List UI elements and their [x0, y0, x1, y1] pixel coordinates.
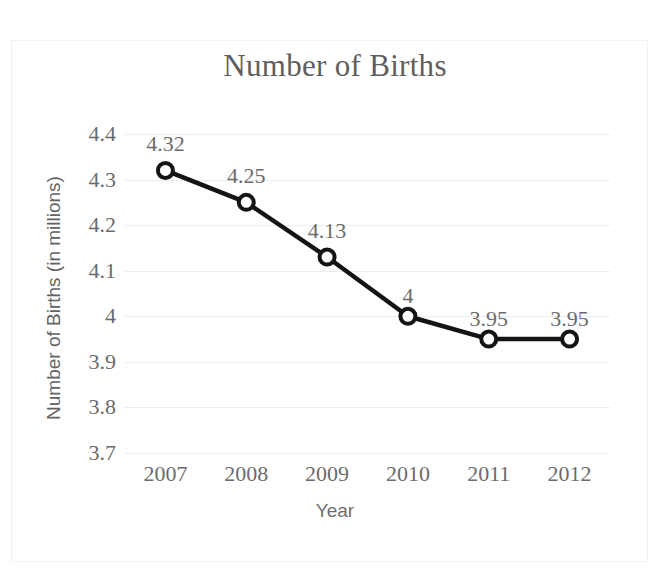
- y-axis-tick-label: 3.9: [58, 351, 116, 373]
- data-point-marker[interactable]: [400, 309, 415, 324]
- data-point-marker[interactable]: [239, 195, 254, 210]
- data-point-marker[interactable]: [158, 163, 173, 178]
- data-point-label: 4: [363, 285, 453, 307]
- y-axis-tick-label: 3.7: [58, 442, 116, 464]
- x-axis-tick-label: 2007: [125, 463, 205, 485]
- y-axis-tick-label: 4.3: [58, 169, 116, 191]
- data-point-label: 4.13: [282, 220, 372, 242]
- data-point-marker[interactable]: [481, 332, 496, 347]
- x-axis-title: Year: [0, 500, 670, 522]
- y-axis-tick-label: 4.4: [58, 123, 116, 145]
- data-point-label: 4.25: [201, 165, 291, 187]
- x-axis-tick-label: 2011: [449, 463, 529, 485]
- plot-area: 4.324.254.1343.953.95: [125, 134, 610, 453]
- x-axis-tick-label: 2010: [368, 463, 448, 485]
- y-axis-tick-labels: 4.44.34.24.143.93.83.7: [58, 134, 116, 453]
- x-axis-tick-labels: 200720082009201020112012: [125, 463, 610, 497]
- data-point-marker[interactable]: [562, 332, 577, 347]
- x-axis-tick-label: 2009: [287, 463, 367, 485]
- x-axis-tick-label: 2008: [206, 463, 286, 485]
- data-point-label: 4.32: [120, 133, 210, 155]
- y-axis-tick-label: 3.8: [58, 396, 116, 418]
- data-point-label: 3.95: [525, 308, 615, 330]
- chart-container: Number of Births Number of Births (in mi…: [0, 0, 670, 586]
- y-axis-tick-label: 4.2: [58, 214, 116, 236]
- chart-title: Number of Births: [0, 48, 670, 84]
- gridline: [125, 453, 610, 454]
- y-axis-tick-label: 4: [58, 305, 116, 327]
- data-point-marker[interactable]: [320, 250, 335, 265]
- x-axis-tick-label: 2012: [530, 463, 610, 485]
- data-point-label: 3.95: [444, 308, 534, 330]
- y-axis-tick-label: 4.1: [58, 260, 116, 282]
